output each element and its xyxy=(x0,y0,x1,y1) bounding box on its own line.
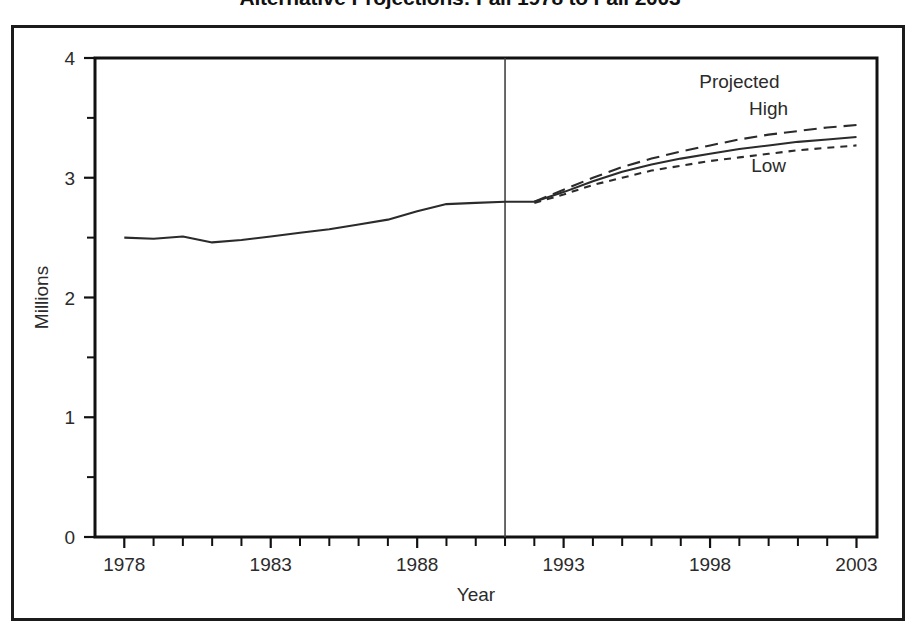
chart-page: Alternative Projections: Fall 1978 to Fa… xyxy=(0,0,920,642)
y-axis-tick-label: 2 xyxy=(64,288,75,309)
annotation-high: High xyxy=(749,98,788,119)
y-axis-tick-label: 3 xyxy=(64,168,75,189)
y-axis-tick-label: 0 xyxy=(64,527,75,548)
y-axis-tick-label: 4 xyxy=(64,48,75,69)
x-axis-tick-label: 2003 xyxy=(835,554,877,575)
x-axis-title: Year xyxy=(457,584,496,605)
line-chart-svg: 01234197819831988199319982003YearMillion… xyxy=(0,0,920,642)
y-axis-title: Millions xyxy=(31,266,52,329)
x-axis-tick-label: 1998 xyxy=(689,554,731,575)
chart-canvas: 01234197819831988199319982003YearMillion… xyxy=(0,0,920,642)
x-axis-tick-label: 1983 xyxy=(250,554,292,575)
annotation-low: Low xyxy=(751,155,786,176)
x-axis-tick-label: 1978 xyxy=(103,554,145,575)
plot-frame xyxy=(95,58,877,537)
y-axis-tick-label: 1 xyxy=(64,407,75,428)
annotation-projected: Projected xyxy=(699,71,779,92)
x-axis-tick-label: 1993 xyxy=(542,554,584,575)
x-axis-tick-label: 1988 xyxy=(396,554,438,575)
